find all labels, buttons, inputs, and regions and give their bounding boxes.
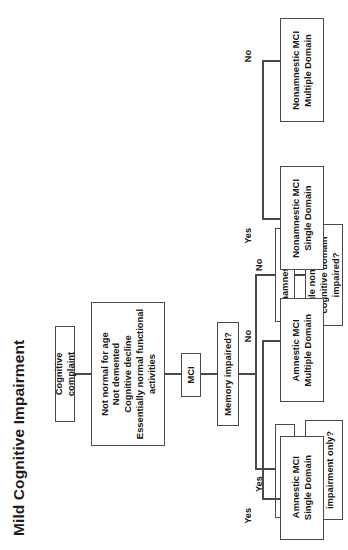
- edge-nonmemory-yes-arm: [262, 218, 280, 220]
- terminal-layer: No Yes No Yes Nonamnestic MCI Multiple D…: [0, 0, 348, 550]
- edge-memonly-yes-arm: [262, 498, 280, 500]
- edge-nonmemory-bus: [262, 60, 264, 220]
- edge-label-nonmemory-no: No: [243, 50, 253, 62]
- node-nonamnestic-multiple-domain: Nonamnestic MCI Multiple Domain: [280, 18, 324, 122]
- node-amnestic-single-domain: Amnestic MCI Single Domain: [280, 436, 324, 540]
- node-amnestic-multiple-domain: Amnestic MCI Multiple Domain: [280, 298, 324, 402]
- node-nonamnestic-single-domain: Nonamnestic MCI Single Domain: [280, 166, 324, 270]
- edge-memonly-no-arm: [262, 340, 280, 342]
- edge-memonly-bus: [262, 340, 264, 500]
- edge-label-memonly-no: No: [243, 330, 253, 342]
- edge-label-nonmemory-yes: Yes: [243, 228, 253, 244]
- edge-label-memonly-yes: Yes: [243, 508, 253, 524]
- edge-nonmemory-no-arm: [262, 60, 280, 62]
